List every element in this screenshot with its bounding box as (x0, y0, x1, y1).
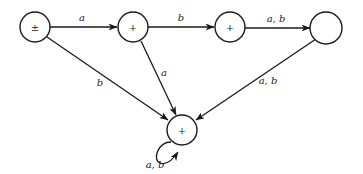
state-q2-accept: + (215, 12, 245, 42)
state-q1-label: + (129, 22, 137, 33)
edge-q3-q4 (196, 39, 316, 120)
edge-label-q0-q1: a (79, 12, 85, 23)
edge-label-q1-q4: a (161, 67, 167, 78)
edge-label-q3-q4: a, b (259, 75, 278, 86)
edge-label-q4-self-loop: a, b (146, 159, 165, 170)
state-q1-accept: + (118, 12, 148, 42)
state-q3-nonaccept (310, 12, 342, 44)
state-q4-accept: + (167, 115, 197, 145)
edge-q0-q4 (47, 37, 168, 120)
state-q0-label: ± (31, 22, 39, 33)
state-q2-label: + (226, 22, 234, 33)
edge-label-q1-q2: b (178, 12, 184, 23)
automaton-diagram: a b a, b b a a, b a, b ± + + + (0, 0, 363, 174)
state-q4-label: + (178, 125, 186, 136)
state-q0-start-accept: ± (20, 12, 50, 42)
edge-label-q2-q3: a, b (267, 13, 286, 24)
edge-label-q0-q4: b (97, 77, 103, 88)
edge-q1-q4 (141, 41, 176, 115)
